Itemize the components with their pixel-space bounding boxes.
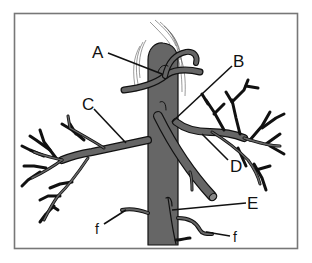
leader-d: [202, 134, 228, 160]
vessel-diagram: A B C D E f f: [0, 0, 312, 263]
leader-f-left: [104, 210, 126, 224]
label-f-right: f: [233, 229, 237, 245]
label-d: D: [230, 157, 242, 176]
leader-e: [172, 203, 246, 210]
label-c: C: [82, 95, 94, 114]
label-a: A: [92, 43, 104, 62]
leader-c: [94, 109, 126, 143]
structure-c-branch: [22, 116, 148, 222]
label-b: B: [233, 52, 244, 71]
label-e: E: [247, 194, 258, 213]
label-f-left: f: [95, 221, 99, 237]
